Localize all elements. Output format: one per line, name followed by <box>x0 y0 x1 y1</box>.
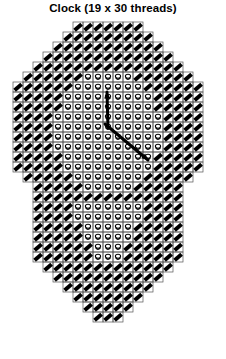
stitch-chart-canvas <box>0 18 226 359</box>
stitch-chart <box>0 18 226 359</box>
page-title: Clock (19 x 30 threads) <box>0 2 226 14</box>
